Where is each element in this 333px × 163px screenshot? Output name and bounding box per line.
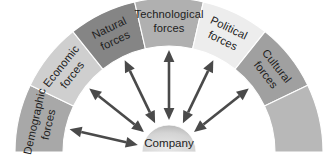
arrow-head-3-0 bbox=[164, 108, 175, 120]
center-node: Company bbox=[142, 125, 196, 152]
diagram-container: Company DemographicforcesEconomicforcesN… bbox=[0, 0, 333, 163]
arrow-shaft-4 bbox=[188, 71, 208, 112]
arrow-head-3-1 bbox=[164, 50, 175, 62]
arrow-shaft-5 bbox=[203, 96, 239, 125]
segment-label-technological-line2: forces bbox=[153, 22, 184, 34]
arrow-shaft-1 bbox=[99, 96, 135, 125]
arrow-head-0-1 bbox=[70, 127, 83, 138]
forces-diagram: Company DemographicforcesEconomicforcesN… bbox=[0, 0, 333, 163]
arrow-shaft-2 bbox=[130, 71, 150, 112]
company-label: Company bbox=[144, 136, 194, 149]
segment-label-technological-line1: Technological bbox=[134, 8, 203, 20]
arrow-shaft-0 bbox=[81, 132, 126, 142]
arrow-head-0-0 bbox=[125, 137, 138, 148]
